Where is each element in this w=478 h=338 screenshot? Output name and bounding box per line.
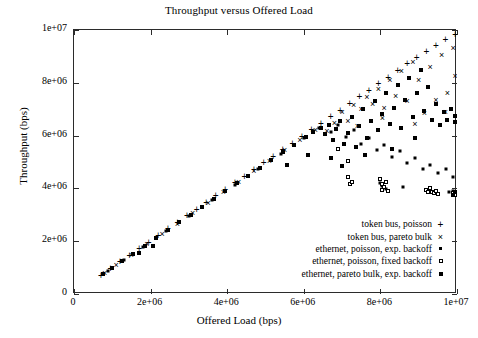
data-point: ×: [387, 76, 392, 85]
legend-marker-cross-icon: ×: [436, 232, 445, 242]
data-point: [386, 189, 390, 193]
data-point: [101, 272, 105, 276]
data-point: [350, 115, 354, 119]
y-axis-label: Throughput (bps): [17, 71, 29, 221]
data-point: [413, 157, 416, 160]
data-point: [292, 143, 296, 147]
y-tick-label: 2e+06: [11, 233, 67, 244]
data-point: [269, 158, 273, 162]
data-point: [200, 205, 204, 209]
data-point: [373, 99, 377, 103]
data-point: [445, 118, 449, 122]
data-point: [340, 164, 344, 168]
legend-marker-open-square-icon: [436, 259, 445, 263]
data-point: +: [443, 35, 449, 45]
x-tick-label: 0: [43, 296, 103, 307]
data-point: +: [404, 59, 410, 69]
chart-legend: token bus, poisson+token bus, pareto bul…: [243, 218, 445, 280]
data-point: [246, 174, 250, 178]
data-point: [137, 251, 141, 255]
data-point: [451, 193, 455, 197]
legend-label: token bus, pareto bulk: [348, 232, 432, 242]
data-point: [329, 156, 333, 160]
data-point: [363, 153, 367, 157]
data-point: ×: [382, 103, 387, 112]
x-tick-label: 2e+06: [120, 296, 180, 307]
data-point: [346, 159, 350, 163]
marker-glyph: ×: [438, 232, 443, 242]
marker-glyph: [439, 272, 443, 276]
data-point: [407, 76, 411, 80]
data-point: [338, 119, 342, 123]
data-point: [323, 132, 327, 136]
y-tick-label: 1e+07: [11, 22, 67, 33]
data-point: [399, 126, 403, 130]
data-point: ×: [412, 119, 417, 128]
data-point: [360, 142, 363, 145]
data-point: ×: [451, 44, 456, 53]
data-point: [350, 180, 354, 184]
data-point: ×: [393, 92, 398, 101]
x-tick: [457, 30, 458, 35]
data-point: [235, 181, 239, 185]
legend-item: ethernet, poisson, exp. backoff: [243, 243, 445, 255]
data-point: [354, 145, 358, 149]
data-point: ×: [439, 51, 444, 60]
data-point: ×: [416, 76, 421, 85]
data-point: [120, 259, 124, 263]
data-point: ×: [339, 107, 344, 116]
data-point: [426, 85, 430, 89]
data-point: [406, 162, 409, 165]
data-point: [177, 220, 181, 224]
data-point: +: [356, 92, 362, 102]
data-point: ×: [452, 72, 457, 81]
data-point: [453, 114, 457, 118]
data-point: [189, 213, 193, 217]
data-point: [329, 130, 332, 133]
data-point: [402, 186, 405, 189]
x-tick-label: 6e+06: [273, 296, 333, 307]
data-point: [334, 127, 338, 131]
data-point: [384, 180, 388, 184]
legend-label: ethernet, poisson, exp. backoff: [316, 244, 432, 254]
y-tick-label: 4e+06: [11, 180, 67, 191]
data-point: [304, 135, 308, 139]
chart-title: Throughput versus Offered Load: [0, 4, 478, 16]
data-point: [388, 122, 392, 126]
data-point: ×: [428, 62, 433, 71]
data-point: [212, 197, 216, 201]
data-point: [306, 153, 310, 157]
legend-item: token bus, pareto bulk×: [243, 230, 445, 242]
data-point: [344, 135, 347, 138]
data-point: [346, 131, 350, 135]
data-point: [392, 106, 396, 110]
y-tick-label: 0: [11, 286, 67, 297]
data-point: [376, 128, 380, 132]
data-point: [369, 119, 373, 123]
data-point: [429, 163, 432, 166]
data-point: ×: [376, 85, 381, 94]
data-point: [438, 123, 442, 127]
marker-glyph: [439, 247, 442, 250]
x-axis-label: Offered Load (bps): [0, 314, 478, 326]
data-point: [396, 83, 400, 87]
data-point: [398, 150, 401, 153]
y-tick: [74, 294, 79, 295]
x-tick-label: 4e+06: [196, 296, 256, 307]
data-point: [319, 126, 323, 130]
x-tick-label: 8e+06: [349, 296, 409, 307]
data-point: [327, 123, 331, 127]
data-point: [281, 150, 285, 154]
data-point: [154, 236, 158, 240]
data-point: [378, 177, 382, 181]
legend-item: token bus, poisson+: [243, 218, 445, 230]
data-point: [453, 120, 457, 124]
data-point: [151, 244, 155, 248]
x-tick: [457, 289, 458, 294]
data-point: [415, 91, 419, 95]
data-point: [258, 166, 262, 170]
data-point: [403, 98, 407, 102]
data-point: [352, 129, 355, 132]
data-point: [390, 155, 393, 158]
data-point: [422, 109, 426, 113]
